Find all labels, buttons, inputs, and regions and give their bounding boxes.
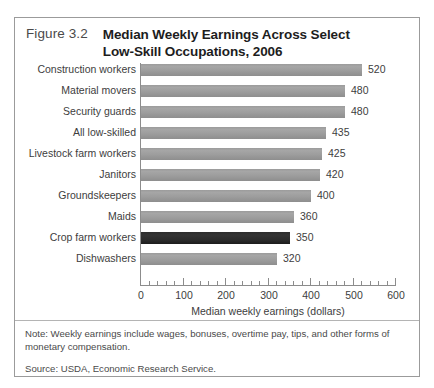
x-tick-minor <box>166 281 167 286</box>
bar-value-label: 435 <box>332 126 350 139</box>
x-tick-minor <box>200 281 201 286</box>
category-label: Crop farm workers <box>0 231 136 244</box>
bar-row: All low-skilled435 <box>15 126 421 147</box>
x-tick-minor <box>191 281 192 286</box>
bar <box>141 64 362 76</box>
x-tick-minor <box>361 281 362 286</box>
category-label: Janitors <box>0 168 136 181</box>
x-tick-minor <box>251 281 252 286</box>
figure-title-line-2: Low-Skill Occupations, 2006 <box>103 43 350 60</box>
bar-value-label: 360 <box>300 210 318 223</box>
x-tick-minor <box>208 281 209 286</box>
x-tick-minor <box>276 281 277 286</box>
x-tick-label: 100 <box>175 289 193 301</box>
x-tick-minor <box>149 281 150 286</box>
x-tick-minor <box>344 281 345 286</box>
note-text: Note: Weekly earnings include wages, bon… <box>25 327 409 353</box>
x-tick-minor <box>378 281 379 286</box>
x-tick-minor <box>293 281 294 286</box>
figure-header: Figure 3.2 Median Weekly Earnings Across… <box>26 26 411 60</box>
category-label: Livestock farm workers <box>0 147 136 160</box>
x-tick-label: 600 <box>387 289 405 301</box>
footer-divider <box>15 320 419 321</box>
x-axis-title: Median weekly earnings (dollars) <box>140 305 396 317</box>
bar-row: Material movers480 <box>15 84 421 105</box>
x-tick-minor <box>157 281 158 286</box>
bar-value-label: 520 <box>368 63 386 76</box>
category-label: Construction workers <box>0 63 136 76</box>
x-tick-minor <box>336 281 337 286</box>
bar-value-label: 480 <box>351 105 369 118</box>
x-tick-minor <box>234 281 235 286</box>
bar-row: Construction workers520 <box>15 63 421 84</box>
category-label: All low-skilled <box>0 126 136 139</box>
category-label: Maids <box>0 210 136 223</box>
x-tick-major <box>353 278 354 286</box>
x-tick-minor <box>217 281 218 286</box>
category-label: Material movers <box>0 84 136 97</box>
x-tick-minor <box>327 281 328 286</box>
bar <box>141 190 311 202</box>
x-tick-minor <box>319 281 320 286</box>
x-tick-major <box>225 278 226 286</box>
bar-value-label: 420 <box>326 168 344 181</box>
bar <box>141 127 326 139</box>
x-tick-minor <box>174 281 175 286</box>
bar <box>141 253 277 265</box>
bar-value-label: 350 <box>296 231 314 244</box>
x-tick-label: 0 <box>138 289 144 301</box>
bar <box>141 148 322 160</box>
bar-value-label: 400 <box>317 189 335 202</box>
figure-number: Figure 3.2 <box>26 26 88 41</box>
bar <box>141 169 320 181</box>
x-tick-minor <box>302 281 303 286</box>
category-label: Dishwashers <box>0 252 136 265</box>
x-tick-major <box>183 278 184 286</box>
x-tick-major <box>268 278 269 286</box>
bar-row: Security guards480 <box>15 105 421 126</box>
bar-row: Crop farm workers350 <box>15 231 421 252</box>
bar-row: Dishwashers320 <box>15 252 421 273</box>
figure-container: Figure 3.2 Median Weekly Earnings Across… <box>14 17 420 377</box>
x-tick-major <box>310 278 311 286</box>
bar-chart-plot: Construction workers520Material movers48… <box>15 63 421 318</box>
bar-row: Maids360 <box>15 210 421 231</box>
x-tick-label: 400 <box>302 289 320 301</box>
x-tick-minor <box>285 281 286 286</box>
source-text: Source: USDA, Economic Research Service. <box>25 362 409 375</box>
bar-value-label: 320 <box>283 252 301 265</box>
bar <box>141 211 294 223</box>
bar <box>141 85 345 97</box>
bar <box>141 232 290 244</box>
bar <box>141 106 345 118</box>
x-tick-label: 200 <box>217 289 235 301</box>
x-tick-major <box>395 278 396 286</box>
figure-title: Median Weekly Earnings Across Select Low… <box>103 26 350 60</box>
x-tick-minor <box>370 281 371 286</box>
bar-row: Groundskeepers400 <box>15 189 421 210</box>
figure-footer: Note: Weekly earnings include wages, bon… <box>25 327 409 375</box>
x-tick-label: 500 <box>345 289 363 301</box>
x-tick-minor <box>259 281 260 286</box>
category-label: Security guards <box>0 105 136 118</box>
x-tick-minor <box>387 281 388 286</box>
x-tick-minor <box>242 281 243 286</box>
x-tick-label: 300 <box>260 289 278 301</box>
bar-row: Janitors420 <box>15 168 421 189</box>
x-tick-major <box>140 278 141 286</box>
bar-row: Livestock farm workers425 <box>15 147 421 168</box>
bar-value-label: 480 <box>351 84 369 97</box>
category-label: Groundskeepers <box>0 189 136 202</box>
figure-title-line-1: Median Weekly Earnings Across Select <box>103 26 350 43</box>
bar-value-label: 425 <box>328 147 346 160</box>
